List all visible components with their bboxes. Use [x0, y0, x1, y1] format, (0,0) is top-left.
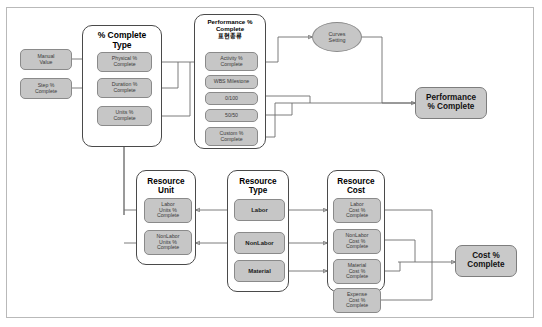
step-pct-line2: Complete [35, 88, 57, 94]
output-performance-line1: Performance [426, 93, 476, 102]
complete-type-title-line2: Type [112, 40, 131, 50]
node-material[interactable]: Material [234, 260, 285, 282]
wbs-milestone-label: WBS Milestone [214, 79, 249, 85]
output-performance-line2: % Complete [428, 102, 475, 111]
material-label: Material [248, 268, 271, 274]
node-duration-pct-complete[interactable]: Duration % Complete [97, 78, 152, 98]
step-pct-label: Step % Complete [35, 83, 57, 94]
node-physical-pct-complete[interactable]: Physical % Complete [97, 52, 152, 72]
node-manual-value[interactable]: Manual Value [20, 49, 72, 70]
fifty-fifty-label: 50/50 [225, 113, 238, 119]
node-wbs-milestone[interactable]: WBS Milestone [205, 75, 258, 89]
node-0-100[interactable]: 0/100 [205, 92, 258, 105]
node-activity-pct-complete[interactable]: Activity % Complete [205, 52, 258, 71]
node-units-pct-complete[interactable]: Units % Complete [97, 106, 152, 126]
group-performance-complete-title: Performance % Complete 표현종류 [195, 19, 265, 40]
node-material-cost-pct-complete[interactable]: Material Cost % Complete [333, 259, 381, 284]
material-cost-line3: Complete [346, 273, 368, 279]
manual-value-line2: Value [40, 59, 53, 65]
resource-unit-title-line1: Resource [147, 177, 184, 186]
output-cost-line2: Complete [467, 260, 504, 269]
node-step-pct-complete[interactable]: Step % Complete [20, 78, 72, 99]
physical-pct-line2: Complete [113, 61, 135, 67]
manual-value-label: Manual Value [37, 54, 54, 65]
activity-pct-line2: Complete [220, 61, 242, 67]
zero-hundred-label: 0/100 [225, 96, 238, 102]
labor-units-line3: Complete [157, 212, 179, 218]
output-performance-pct-complete[interactable]: Performance % Complete [415, 87, 487, 119]
nonlabor-cost-line3: Complete [346, 243, 368, 249]
node-labor-cost-pct-complete[interactable]: Labor Cost % Complete [333, 198, 381, 223]
output-cost-pct-complete[interactable]: Cost % Complete [455, 245, 517, 277]
node-50-50[interactable]: 50/50 [205, 109, 258, 122]
resource-cost-title-line1: Resource [337, 177, 374, 186]
group-resource-type-title: Resource Type [228, 177, 288, 195]
node-nonlabor-units-pct-complete[interactable]: NonLabor Units % Complete [144, 230, 192, 255]
resource-type-title-line1: Resource [239, 177, 276, 186]
resource-unit-title-line2: Unit [158, 186, 174, 195]
node-custom-pct-complete[interactable]: Custom % Complete [205, 127, 258, 146]
nonlabor-units-line3: Complete [157, 244, 179, 250]
nonlabor-label: NonLabor [245, 240, 273, 246]
labor-label: Labor [251, 207, 268, 213]
node-labor-units-pct-complete[interactable]: Labor Units % Complete [144, 198, 192, 223]
labor-cost-line3: Complete [346, 212, 368, 218]
units-pct-line2: Complete [113, 115, 135, 121]
node-curves-setting[interactable]: Curves Setting [312, 22, 362, 52]
complete-type-title-line1: % Complete [98, 30, 147, 40]
node-expense-cost-pct-complete[interactable]: Expense Cost % Complete [333, 288, 381, 313]
node-labor[interactable]: Labor [234, 199, 285, 221]
resource-type-title-line2: Type [249, 186, 268, 195]
diagram-canvas: Manual Value Step % Complete % Complete … [0, 0, 542, 327]
custom-pct-line2: Complete [220, 136, 242, 142]
output-cost-line1: Cost % [472, 251, 500, 260]
curves-setting-line2: Setting [329, 37, 346, 43]
expense-cost-line3: Complete [346, 302, 368, 308]
group-complete-type-title: % Complete Type [83, 31, 161, 50]
node-nonlabor[interactable]: NonLabor [234, 232, 285, 254]
node-nonlabor-cost-pct-complete[interactable]: NonLabor Cost % Complete [333, 229, 381, 254]
performance-title-korean: 표현종류 [218, 32, 242, 39]
performance-title-line1: Performance % [207, 18, 252, 25]
resource-cost-title-line2: Cost [347, 186, 365, 195]
duration-pct-line2: Complete [113, 87, 135, 93]
group-resource-cost-title: Resource Cost [328, 177, 384, 195]
group-resource-unit-title: Resource Unit [137, 177, 195, 195]
performance-title-line2: Complete [216, 25, 244, 32]
